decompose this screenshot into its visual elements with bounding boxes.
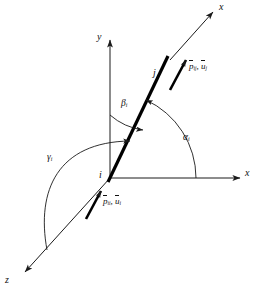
disp-symbol-i: u bbox=[115, 197, 120, 206]
vector-arrow-j bbox=[170, 60, 186, 90]
figure-canvas: x x y z i j αi βi γi pij, uj pii, ui bbox=[0, 0, 261, 295]
disp-symbol-j: u bbox=[201, 62, 206, 71]
beta-subscript: i bbox=[126, 102, 128, 108]
vector-label-j: pij, uj bbox=[189, 62, 207, 72]
angle-label-alpha: αi bbox=[183, 133, 190, 143]
alpha-subscript: i bbox=[188, 136, 190, 142]
vector-label-i: pii, ui bbox=[103, 197, 121, 207]
z-axis-label: z bbox=[5, 275, 9, 285]
angle-label-gamma: γi bbox=[47, 153, 52, 163]
node-label-i: i bbox=[99, 170, 102, 180]
x-local-axis-line bbox=[170, 12, 213, 60]
force-symbol-j: p bbox=[189, 62, 194, 71]
angle-label-beta: βi bbox=[121, 99, 127, 109]
force-symbol-i: p bbox=[103, 197, 108, 206]
gamma-subscript: i bbox=[51, 156, 53, 162]
x-local-axis-label: x bbox=[219, 2, 223, 12]
vector-arrow-i bbox=[86, 191, 101, 219]
y-axis-label: y bbox=[97, 32, 101, 42]
member-line-ij bbox=[108, 56, 168, 182]
x-axis-label: x bbox=[245, 168, 249, 178]
z-axis-line bbox=[25, 178, 110, 272]
diagram-svg bbox=[0, 0, 261, 295]
node-label-j: j bbox=[153, 68, 156, 78]
